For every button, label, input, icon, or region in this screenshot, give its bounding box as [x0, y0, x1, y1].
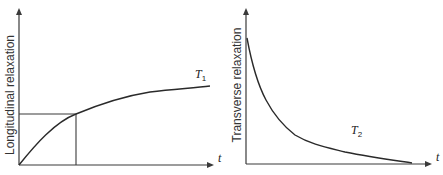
left-x-axis-label: t [218, 151, 222, 165]
right-x-axis-arrow-icon [425, 161, 432, 167]
right-panel: Transverse relaxation t T2 [230, 8, 440, 167]
right-y-axis-arrow-icon [243, 8, 249, 15]
left-y-axis-arrow-icon [16, 8, 22, 15]
left-panel: Longitudinal relaxation t T1 [3, 8, 222, 168]
t2-decay-curve [247, 38, 412, 163]
t1-label: T1 [195, 67, 207, 83]
left-y-axis-label: Longitudinal relaxation [3, 35, 17, 155]
right-y-axis-label: Transverse relaxation [230, 28, 244, 143]
right-x-axis-label: t [436, 150, 440, 164]
relaxation-diagram: Longitudinal relaxation t T1 Transverse … [0, 0, 443, 175]
left-x-axis-arrow-icon [207, 162, 214, 168]
t1-recovery-curve [19, 86, 210, 165]
t2-label: T2 [351, 123, 363, 139]
